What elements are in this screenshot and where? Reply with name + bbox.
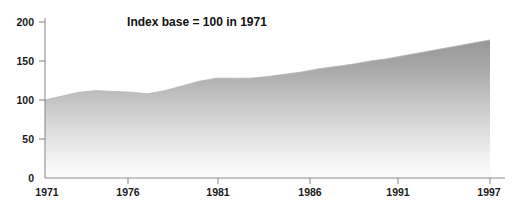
y-tick-label-150: 150 bbox=[16, 55, 34, 67]
series-area-index bbox=[45, 40, 490, 178]
y-tick-label-100: 100 bbox=[16, 94, 34, 106]
x-tick-label-1981: 1981 bbox=[206, 186, 230, 198]
x-tick-label-1986: 1986 bbox=[298, 186, 322, 198]
x-tick-label-1997: 1997 bbox=[477, 186, 501, 198]
area-chart: 200 150 100 50 0 1971 1976 1981 1986 199… bbox=[0, 0, 515, 217]
x-tick-label-1976: 1976 bbox=[116, 186, 140, 198]
chart-container: 200 150 100 50 0 1971 1976 1981 1986 199… bbox=[0, 0, 515, 217]
y-tick-label-0: 0 bbox=[28, 172, 34, 184]
plot-area bbox=[45, 40, 490, 178]
x-axis: 1971 1976 1981 1986 1991 1997 bbox=[35, 178, 505, 198]
x-tick-label-1991: 1991 bbox=[386, 186, 410, 198]
y-tick-label-200: 200 bbox=[16, 16, 34, 28]
y-tick-label-50: 50 bbox=[22, 133, 34, 145]
chart-annotation: Index base = 100 in 1971 bbox=[127, 15, 267, 29]
y-axis: 200 150 100 50 0 bbox=[16, 16, 45, 184]
x-tick-label-1971: 1971 bbox=[35, 186, 59, 198]
